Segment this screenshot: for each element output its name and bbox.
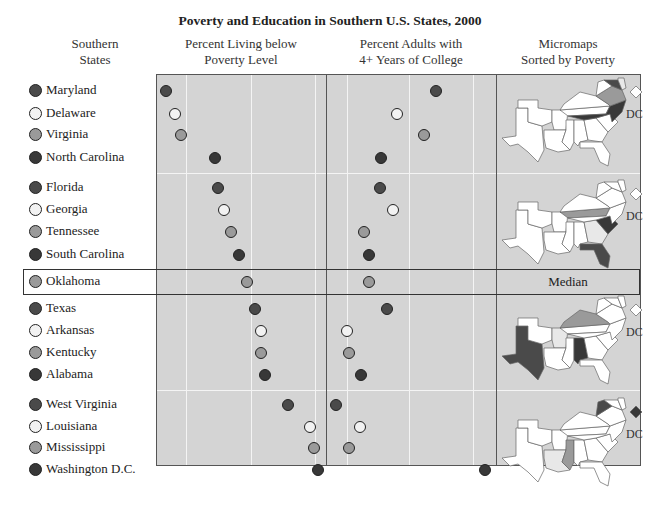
state-shape-washington-d-c- xyxy=(630,406,642,418)
micromap: DC xyxy=(502,78,643,166)
state-shape-florida xyxy=(580,244,610,268)
micromap: DC xyxy=(502,398,643,486)
micromap: DC xyxy=(502,296,643,384)
dc-label: DC xyxy=(626,325,643,339)
dc-label: DC xyxy=(626,107,643,121)
state-shape-washington-d-c- xyxy=(630,304,642,316)
dc-label: DC xyxy=(626,427,643,441)
state-shape-washington-d-c- xyxy=(630,188,642,200)
state-shape-florida xyxy=(580,142,610,166)
state-shape-florida xyxy=(580,462,610,486)
micromap: DC xyxy=(502,180,643,268)
state-shape-washington-d-c- xyxy=(630,86,642,98)
micromaps: DCDCDCDC xyxy=(0,0,660,507)
dc-label: DC xyxy=(626,209,643,223)
state-shape-florida xyxy=(580,360,610,384)
